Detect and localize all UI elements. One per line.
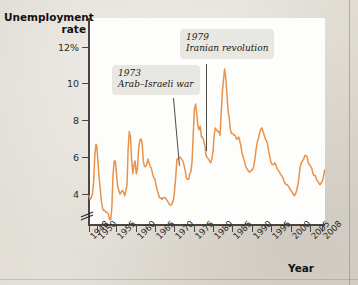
annotation-leader-1979 [206, 64, 207, 151]
y-tick-label: 4 [73, 189, 79, 200]
annotation-1979: 1979 Iranian revolution [181, 30, 273, 58]
y-tick-mark [82, 157, 89, 158]
annotation-text: Iranian revolution [186, 43, 268, 54]
annotation-1973: 1973 Arab–Israeli war [113, 66, 199, 94]
annotation-year: 1979 [186, 32, 268, 43]
annotation-year: 1973 [118, 68, 194, 79]
y-tick-label: 10 [67, 78, 79, 89]
y-tick-mark [82, 47, 89, 48]
y-axis-title: Unemployment rate [4, 11, 86, 35]
axis-break-symbol [80, 205, 96, 223]
figure-bottom-border [0, 279, 358, 280]
annotation-text: Arab–Israeli war [118, 79, 194, 90]
y-tick-mark [82, 83, 89, 84]
y-tick-label: 8 [73, 115, 79, 126]
unemployment-rate-chart-figure: Unemployment rate Year 12% 10 8 6 4 1948… [0, 0, 358, 285]
y-tick-mark [82, 194, 89, 195]
y-tick-label: 6 [73, 152, 79, 163]
y-tick-label: 12% [58, 42, 79, 53]
figure-right-border [349, 0, 350, 285]
y-tick-mark [82, 120, 89, 121]
x-axis-title: Year [288, 262, 314, 274]
